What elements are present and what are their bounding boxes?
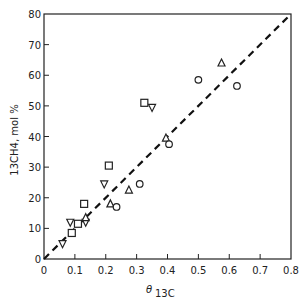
circle-marker	[195, 77, 202, 84]
triangle-down-marker	[59, 241, 66, 248]
x-tick-label: 0.1	[67, 265, 83, 276]
triangle-down-marker	[67, 219, 74, 226]
circle-marker	[136, 181, 143, 188]
triangle-up-marker	[218, 59, 225, 66]
circle-marker	[234, 83, 241, 90]
y-tick-label: 80	[28, 9, 41, 20]
circle-marker	[166, 141, 173, 148]
y-tick-label: 50	[28, 101, 41, 112]
y-axis-ticks: 01020304050607080	[28, 9, 49, 265]
y-tick-label: 40	[28, 132, 41, 143]
y-tick-label: 70	[28, 40, 41, 51]
square-marker	[105, 162, 112, 169]
y-tick-label: 60	[28, 70, 41, 81]
x-tick-label: 0.8	[283, 265, 299, 276]
square-marker	[81, 200, 88, 207]
scatter-chart: 00.10.20.30.40.50.60.70.8 01020304050607…	[0, 0, 306, 304]
circle-marker	[113, 204, 120, 211]
x-tick-label: 0.6	[221, 265, 237, 276]
y-tick-label: 10	[28, 223, 41, 234]
y-tick-label: 20	[28, 193, 41, 204]
x-tick-label: 0.3	[129, 265, 145, 276]
x-tick-label: 0.2	[98, 265, 114, 276]
square-marker	[141, 99, 148, 106]
triangle-up-marker	[125, 186, 132, 193]
y-axis-label: 13CH4, mol %	[9, 104, 20, 175]
square-marker	[68, 229, 75, 236]
x-tick-label: 0.4	[160, 265, 176, 276]
y-axis-title: 13CH4, mol %	[9, 104, 20, 175]
x-axis-label-sub: 13C	[155, 288, 175, 299]
x-axis-ticks: 00.10.20.30.40.50.60.70.8	[41, 254, 299, 276]
y-tick-label: 0	[35, 254, 41, 265]
x-tick-label: 0	[41, 265, 47, 276]
triangle-down-marker	[101, 181, 108, 188]
x-axis-label-main: θ	[146, 284, 152, 295]
triangle-up-marker	[162, 134, 169, 141]
triangle-down-marker	[149, 104, 156, 111]
x-tick-label: 0.5	[190, 265, 206, 276]
y-tick-label: 30	[28, 162, 41, 173]
x-tick-label: 0.7	[252, 265, 268, 276]
square-marker	[74, 220, 81, 227]
